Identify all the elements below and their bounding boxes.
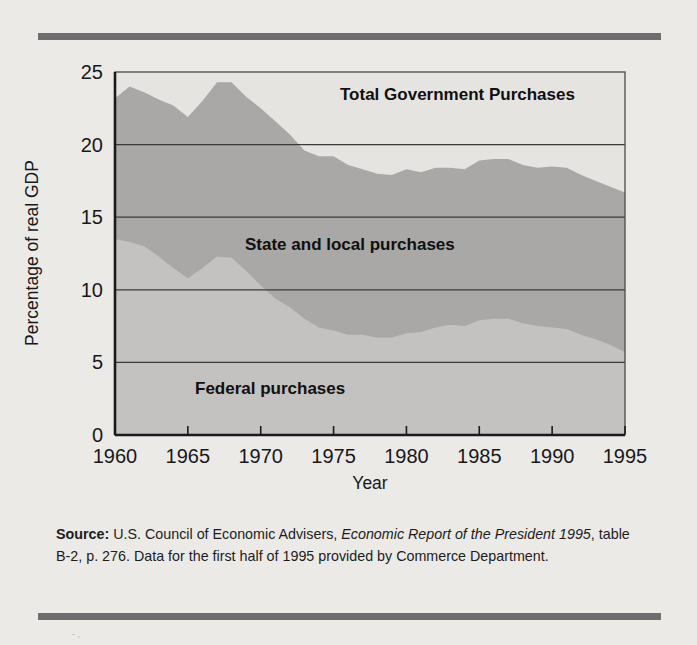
x-tick-1960: 1960 (93, 445, 138, 467)
y-tick-25: 25 (81, 61, 103, 83)
y-tick-10: 10 (81, 279, 103, 301)
label-state-and-local-purchases: State and local purchases (245, 235, 455, 254)
bottom-divider-rule (38, 613, 661, 620)
source-note: Source: U.S. Council of Economic Adviser… (56, 524, 640, 567)
x-tick-1965: 1965 (166, 445, 211, 467)
x-tick-1985: 1985 (457, 445, 502, 467)
x-tick-1995: 1995 (603, 445, 648, 467)
source-italic-title: Economic Report of the President 1995 (341, 526, 591, 542)
page-speck: - , (72, 629, 80, 639)
x-axis-title: Year (352, 473, 388, 493)
y-tick-15: 15 (81, 206, 103, 228)
y-axis-title: Percentage of real GDP (22, 160, 42, 346)
label-federal-purchases: Federal purchases (195, 379, 345, 398)
y-tick-20: 20 (81, 134, 103, 156)
x-tick-1975: 1975 (311, 445, 356, 467)
y-tick-5: 5 (92, 351, 103, 373)
figure-panel: 0510152025 19601965197019751980198519901… (0, 0, 697, 645)
y-tick-0: 0 (92, 424, 103, 446)
source-prefix: Source: (56, 526, 109, 542)
top-divider-rule (38, 33, 661, 40)
label-total-government-purchases: Total Government Purchases (340, 85, 575, 104)
x-tick-1990: 1990 (530, 445, 575, 467)
source-text-1: U.S. Council of Economic Advisers, (109, 526, 341, 542)
stacked-area-chart: 0510152025 19601965197019751980198519901… (0, 46, 697, 501)
chart-svg: 0510152025 19601965197019751980198519901… (0, 46, 697, 501)
x-tick-1980: 1980 (384, 445, 429, 467)
y-axis-tick-labels: 0510152025 (81, 61, 103, 446)
x-tick-1970: 1970 (238, 445, 283, 467)
